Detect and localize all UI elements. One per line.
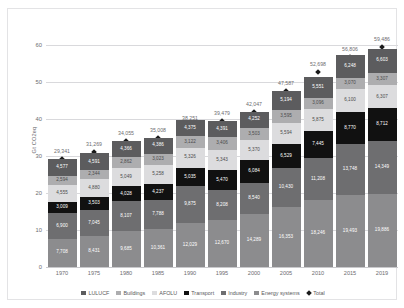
bar-segment[interactable]: 3,503 [80, 197, 109, 210]
bar-segment[interactable]: 8,208 [208, 190, 237, 220]
bar-segment[interactable]: 3,595 [272, 110, 301, 123]
bar-segment[interactable]: 3,307 [368, 73, 397, 85]
bar-segment[interactable]: 5,370 [240, 140, 269, 160]
bar-segment[interactable]: 7,788 [144, 200, 173, 229]
segment-value-label: 9,685 [120, 247, 132, 252]
bar-segment[interactable]: 6,900 [48, 213, 77, 238]
bar-segment[interactable]: 5,258 [144, 165, 173, 184]
segment-value-label: 8,208 [216, 203, 228, 208]
total-value-label: 39,479 [214, 110, 230, 116]
bar-segment[interactable]: 13,748 [336, 144, 365, 195]
bar-segment[interactable]: 3,122 [176, 136, 205, 148]
legend-swatch-icon [254, 291, 259, 296]
segment-value-label: 18,246 [311, 231, 325, 236]
bar-segment[interactable]: 8,770 [336, 112, 365, 144]
legend-item[interactable]: Transport [184, 290, 214, 296]
bar-segment[interactable]: 10,430 [272, 168, 301, 207]
legend-item[interactable]: Total [307, 290, 325, 296]
bar-segment[interactable]: 7,708 [48, 239, 77, 267]
bar-segment[interactable]: 6,084 [240, 160, 269, 182]
bar-column[interactable]: 42,04714,2898,5406,0845,3703,5034,252 [240, 27, 269, 267]
bar-segment[interactable]: 5,049 [112, 168, 141, 187]
bar-column[interactable]: 38,25112,0299,8755,0355,3263,1224,375 [176, 27, 205, 267]
bar-segment[interactable]: 2,862 [112, 157, 141, 168]
bar-segment[interactable]: 4,252 [240, 112, 269, 128]
bar-column[interactable]: 59,48619,88614,3498,7126,3073,3076,603 [368, 27, 397, 267]
bar-segment[interactable]: 7,445 [304, 131, 333, 158]
legend-item[interactable]: Buildings [116, 290, 145, 296]
legend-swatch-icon [152, 291, 157, 296]
legend-label: LULUCF [88, 290, 109, 296]
segment-value-label: 3,307 [376, 77, 388, 82]
bar-segment[interactable]: 9,875 [176, 186, 205, 222]
bar-segment[interactable]: 5,326 [176, 148, 205, 168]
bar-segment[interactable]: 19,493 [336, 195, 365, 267]
bar-column[interactable]: 56,80619,49313,7488,7706,1003,0706,248 [336, 27, 365, 267]
bar-segment[interactable]: 5,470 [208, 170, 237, 190]
bar-segment[interactable]: 4,386 [144, 138, 173, 154]
bar-column[interactable]: 35,00810,3617,7884,2375,2583,0234,386 [144, 27, 173, 267]
bar-segment[interactable]: 4,577 [48, 159, 77, 176]
bar-segment[interactable]: 6,603 [368, 49, 397, 73]
segment-value-label: 6,900 [56, 224, 68, 229]
stacked-bar: 12,0299,8755,0355,3263,1224,375 [176, 120, 205, 267]
bar-segment[interactable]: 4,591 [80, 153, 109, 170]
bar-segment[interactable]: 4,880 [80, 179, 109, 197]
stacked-bar: 12,6708,2085,4705,3433,4064,391 [208, 121, 237, 267]
segment-value-label: 14,289 [247, 238, 261, 243]
bar-segment[interactable]: 16,353 [272, 207, 301, 267]
bar-segment[interactable]: 5,551 [304, 77, 333, 97]
bar-segment[interactable]: 3,070 [336, 78, 365, 89]
legend-item[interactable]: LULUCF [81, 290, 109, 296]
bar-segment[interactable]: 4,366 [112, 141, 141, 157]
bar-segment[interactable]: 3,406 [208, 137, 237, 150]
bar-segment[interactable]: 2,344 [80, 170, 109, 179]
bar-segment[interactable]: 14,289 [240, 214, 269, 267]
segment-value-label: 5,049 [120, 175, 132, 180]
legend-item[interactable]: Industry [221, 290, 247, 296]
bar-segment[interactable]: 6,100 [336, 89, 365, 112]
bar-column[interactable]: 29,3417,7086,9003,0094,5552,5944,577 [48, 27, 77, 267]
bar-segment[interactable]: 8,431 [80, 236, 109, 267]
legend-item[interactable]: Energy systems [254, 290, 299, 296]
bar-column[interactable]: 39,47912,6708,2085,4705,3433,4064,391 [208, 27, 237, 267]
bar-segment[interactable]: 3,009 [48, 202, 77, 213]
bar-segment[interactable]: 6,307 [368, 85, 397, 108]
bar-segment[interactable]: 9,685 [112, 231, 141, 267]
bar-segment[interactable]: 6,529 [272, 144, 301, 168]
bar-segment[interactable]: 3,023 [144, 154, 173, 165]
bar-segment[interactable]: 4,237 [144, 184, 173, 200]
total-marker[interactable] [315, 70, 321, 76]
bar-segment[interactable]: 8,712 [368, 108, 397, 140]
bar-segment[interactable]: 12,029 [176, 223, 205, 267]
bar-segment[interactable]: 4,391 [208, 121, 237, 137]
bar-column[interactable]: 52,69818,24611,2087,4455,8753,0965,551 [304, 27, 333, 267]
bar-segment[interactable]: 12,670 [208, 220, 237, 267]
bar-segment[interactable]: 18,246 [304, 200, 333, 267]
bar-segment[interactable]: 14,349 [368, 141, 397, 194]
bar-segment[interactable]: 4,555 [48, 185, 77, 202]
bar-segment[interactable]: 8,107 [112, 201, 141, 231]
bar-segment[interactable]: 8,540 [240, 183, 269, 215]
bar-segment[interactable]: 7,045 [80, 210, 109, 236]
bar-segment[interactable]: 3,503 [240, 128, 269, 141]
bar-segment[interactable]: 4,028 [112, 186, 141, 201]
segment-value-label: 3,096 [312, 101, 324, 106]
legend-item[interactable]: AFOLU [152, 290, 177, 296]
bar-column[interactable]: 31,2698,4317,0453,5034,8802,3444,591 [80, 27, 109, 267]
bar-segment[interactable]: 5,194 [272, 91, 301, 110]
bar-segment[interactable]: 19,886 [368, 194, 397, 267]
bar-segment[interactable]: 6,248 [336, 55, 365, 78]
bar-segment[interactable]: 10,361 [144, 229, 173, 267]
bar-segment[interactable]: 5,035 [176, 168, 205, 187]
bar-segment[interactable]: 5,343 [208, 150, 237, 170]
bar-segment[interactable]: 2,594 [48, 176, 77, 186]
bar-segment[interactable]: 5,594 [272, 123, 301, 144]
segment-value-label: 3,009 [56, 205, 68, 210]
bar-segment[interactable]: 11,208 [304, 158, 333, 199]
bar-column[interactable]: 47,58716,35310,4306,5295,5943,5955,194 [272, 27, 301, 267]
bar-segment[interactable]: 3,096 [304, 98, 333, 109]
bar-column[interactable]: 34,0559,6858,1074,0285,0492,8624,366 [112, 27, 141, 267]
bar-segment[interactable]: 5,875 [304, 109, 333, 131]
bar-segment[interactable]: 4,375 [176, 120, 205, 136]
